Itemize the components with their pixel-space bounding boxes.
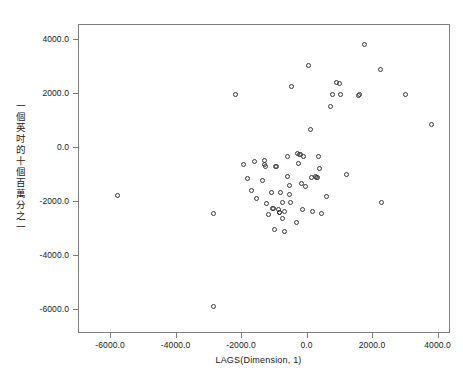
data-point: [211, 211, 216, 216]
data-point: [310, 209, 315, 214]
x-tick-label: -6000.0: [95, 340, 125, 350]
data-point: [338, 92, 343, 97]
data-point: [316, 154, 321, 159]
y-tick-label: -2000.0: [39, 196, 69, 206]
data-point: [303, 184, 308, 189]
data-point: [289, 84, 294, 89]
x-tick-mark: [176, 333, 177, 338]
data-point: [288, 200, 293, 205]
data-point: [296, 161, 301, 166]
data-point: [263, 164, 268, 169]
data-point: [282, 229, 287, 234]
y-tick-label: -6000.0: [39, 304, 69, 314]
x-tick-mark: [241, 333, 242, 338]
data-point: [330, 92, 335, 97]
data-point: [287, 183, 292, 188]
data-point: [278, 190, 283, 195]
data-point: [306, 63, 311, 68]
data-point: [252, 159, 257, 164]
x-tick-mark: [307, 333, 308, 338]
data-point: [249, 188, 254, 193]
x-axis-title-wrap: LAGS(Dimension, 1): [0, 355, 463, 365]
data-point: [294, 220, 299, 225]
x-tick-label: -4000.0: [161, 340, 191, 350]
data-point: [260, 178, 265, 183]
data-point: [269, 190, 274, 195]
x-axis-title: LAGS(Dimension, 1): [215, 355, 301, 365]
data-point: [308, 127, 313, 132]
data-point: [378, 67, 383, 72]
data-point: [379, 200, 384, 205]
data-point: [285, 174, 290, 179]
data-point: [403, 92, 408, 97]
plot-area: [78, 24, 450, 333]
data-point: [429, 122, 434, 127]
data-point: [271, 206, 276, 211]
data-point: [211, 304, 216, 309]
x-tick-mark: [438, 333, 439, 338]
data-point: [324, 194, 329, 199]
data-point: [362, 42, 367, 47]
data-point: [280, 216, 285, 221]
data-point: [272, 227, 277, 232]
x-tick-label: 4000.0: [424, 340, 451, 350]
data-point: [357, 92, 362, 97]
y-tick-label: 0.0: [57, 142, 69, 152]
data-points-layer: [79, 25, 449, 332]
y-tick-label: -4000.0: [39, 250, 69, 260]
y-axis-title: 一個英吋的十個百萬分之一: [14, 100, 28, 232]
data-point: [287, 192, 292, 197]
y-tick-label: 4000.0: [42, 34, 69, 44]
data-point: [280, 200, 285, 205]
data-point: [315, 175, 320, 180]
x-tick-label: 0.0: [301, 340, 313, 350]
data-point: [254, 196, 259, 201]
x-tick-mark: [372, 333, 373, 338]
data-point: [317, 166, 322, 171]
data-point: [274, 164, 279, 169]
data-point: [337, 81, 342, 86]
data-point: [300, 207, 305, 212]
data-point: [285, 154, 290, 159]
data-point: [264, 201, 269, 206]
x-tick-label: -2000.0: [226, 340, 256, 350]
data-point: [282, 209, 287, 214]
data-point: [328, 104, 333, 109]
data-point: [241, 162, 246, 167]
data-point: [266, 212, 271, 217]
scatter-plot-chart: 一個英吋的十個百萬分之一 4000.02000.00.0-2000.0-4000…: [0, 0, 463, 380]
data-point: [319, 211, 324, 216]
y-tick-label: 2000.0: [42, 88, 69, 98]
x-tick-label: 2000.0: [359, 340, 386, 350]
data-point: [115, 193, 120, 198]
data-point: [245, 176, 250, 181]
data-point: [233, 92, 238, 97]
x-tick-mark: [110, 333, 111, 338]
data-point: [301, 154, 306, 159]
data-point: [344, 172, 349, 177]
